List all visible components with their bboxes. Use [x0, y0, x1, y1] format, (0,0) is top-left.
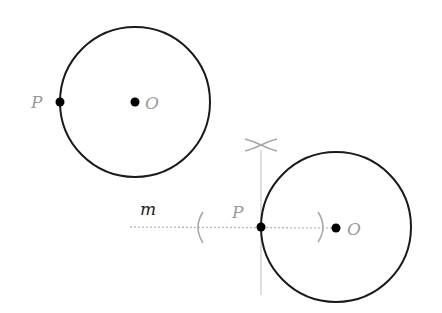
figure-1: P O: [30, 27, 210, 177]
label-p-2: P: [231, 202, 244, 222]
diagram-canvas: P O P O m: [0, 0, 442, 313]
diagram-svg: P O P O m: [0, 0, 442, 313]
center-o-2: [332, 224, 341, 233]
label-m: m: [140, 199, 156, 219]
arc-intersection-mark: [245, 139, 277, 151]
right-arc: [318, 212, 323, 242]
figure-2: P O m: [130, 139, 411, 302]
line-m: [130, 227, 336, 228]
label-o-1: O: [145, 93, 159, 113]
label-o-2: O: [347, 219, 361, 239]
center-o-1: [131, 98, 140, 107]
point-p-1: [56, 98, 65, 107]
point-p-2: [257, 223, 266, 232]
label-p-1: P: [30, 92, 43, 112]
